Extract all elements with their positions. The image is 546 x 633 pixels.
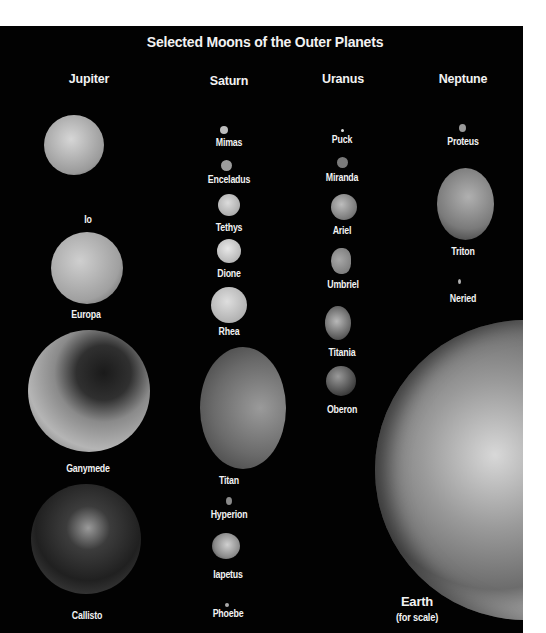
moon-label-ganymede: Ganymede	[66, 463, 110, 474]
poster-title: Selected Moons of the Outer Planets	[147, 34, 384, 50]
moon-label-tethys: Tethys	[216, 222, 243, 233]
moons-poster: Selected Moons of the Outer Planets Jupi…	[0, 26, 523, 633]
moon-neried	[458, 279, 461, 284]
heading-uranus: Uranus	[322, 72, 364, 86]
moon-phoebe	[225, 603, 229, 607]
moon-label-puck: Puck	[332, 134, 352, 145]
heading-neptune: Neptune	[439, 72, 488, 86]
moon-label-umbriel: Umbriel	[327, 279, 359, 290]
earth-sublabel: (for scale)	[396, 611, 438, 623]
moon-label-io: Io	[84, 214, 91, 225]
moon-label-titan: Titan	[219, 475, 239, 486]
moon-label-ariel: Ariel	[333, 225, 352, 236]
moon-label-proteus: Proteus	[447, 136, 479, 147]
moon-europa	[51, 232, 123, 304]
moon-label-phoebe: Phoebe	[213, 608, 244, 619]
moon-label-oberon: Oberon	[327, 404, 357, 415]
moon-tethys	[218, 194, 240, 216]
moon-iapetus	[212, 533, 240, 559]
moon-label-callisto: Callisto	[72, 610, 102, 621]
moon-titania	[325, 306, 351, 340]
moon-label-neried: Neried	[450, 293, 476, 304]
moon-ariel	[331, 194, 357, 220]
moon-oberon	[326, 366, 356, 396]
moon-rhea	[211, 287, 247, 323]
moon-mimas	[220, 126, 228, 134]
moon-label-triton: Triton	[451, 246, 474, 257]
moon-label-dione: Dione	[217, 268, 241, 279]
earth-image	[375, 320, 523, 620]
moon-miranda	[337, 157, 348, 168]
moon-label-rhea: Rhea	[219, 326, 240, 337]
moon-hyperion	[226, 497, 232, 505]
moon-io	[44, 115, 104, 175]
moon-proteus	[459, 124, 466, 132]
heading-saturn: Saturn	[210, 74, 248, 88]
moon-label-hyperion: Hyperion	[211, 509, 248, 520]
heading-jupiter: Jupiter	[69, 72, 109, 86]
moon-label-enceladus: Enceladus	[208, 174, 250, 185]
moon-label-miranda: Miranda	[326, 172, 359, 183]
moon-titan	[200, 347, 286, 469]
moon-label-europa: Europa	[71, 309, 100, 320]
moon-triton	[437, 168, 494, 240]
moon-dione	[217, 239, 241, 263]
moon-enceladus	[221, 160, 232, 171]
moon-callisto	[31, 484, 141, 594]
moon-label-titania: Titania	[329, 347, 356, 358]
moon-label-mimas: Mimas	[216, 137, 243, 148]
moon-puck	[341, 129, 344, 132]
moon-umbriel	[331, 248, 351, 274]
earth-label: Earth	[401, 594, 433, 609]
moon-ganymede	[28, 330, 150, 452]
moon-label-iapetus: Iapetus	[213, 569, 243, 580]
